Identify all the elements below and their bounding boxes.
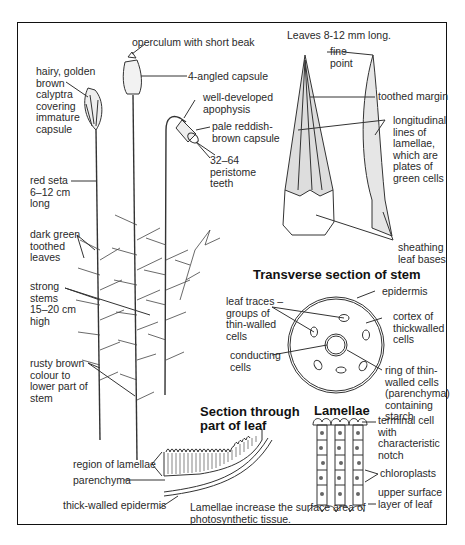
label-conducting-cells: conducting cells [230,350,281,373]
label-pale-capsule: pale reddish- brown capsule [212,121,280,144]
label-terminal-cell: terminal cell with characteristic notch [378,415,440,461]
label-calyptra: hairy, golden brown calyptra covering im… [36,66,95,135]
label-chloroplasts: chloroplasts [380,468,436,480]
label-toothed-margin: toothed margin [378,91,448,103]
label-leaves: dark green toothed leaves [30,229,80,264]
leaf-section-drawing [164,430,272,496]
leaf-drawing-front [283,55,334,235]
lamellae-title: Lamellae [314,404,370,418]
label-longitudinal-lamellae: longitudinal lines of lamellae, which ar… [393,115,446,184]
label-stems: strong stems 15–20 cm high [30,281,76,327]
lamellae-drawing [308,419,367,512]
label-cortex: cortex of thickwalled cells [393,311,444,346]
label-apophysis: well-developed apophysis [203,92,273,115]
label-operculum: operculum with short beak [132,37,255,49]
hanging-capsule-drawing [176,120,200,145]
leaf-section-title: Section through part of leaf [200,405,300,433]
label-region-of-lamellae: region of lamellae [73,459,156,471]
label-leaf-traces: leaf traces – groups of thin-walled cell… [226,296,283,342]
label-parenchyma: parenchyma [73,475,131,487]
label-four-angled-capsule: 4-angled capsule [188,71,268,83]
label-fine-point: fine point [330,46,353,69]
label-rusty-brown: rusty brown colour to lower part of stem [30,358,88,404]
capsule-drawing [123,52,141,94]
label-peristome: 32–64 peristome teeth [210,155,256,190]
label-thick-walled-epidermis: thick-walled epidermis [63,500,166,512]
stem-section-title: Transverse section of stem [253,268,421,282]
leaf-drawing-side [363,55,392,236]
leaf-size-caption: Leaves 8-12 mm long. [287,30,391,42]
label-upper-surface: upper surface layer of leaf [378,487,442,510]
label-sheathing-leaf-bases: sheathing leaf bases [398,242,446,265]
lamellae-note: Lamellae increase the surface area of ph… [190,502,366,525]
label-seta: red seta 6–12 cm long [30,175,70,210]
label-epidermis: epidermis [382,286,428,298]
